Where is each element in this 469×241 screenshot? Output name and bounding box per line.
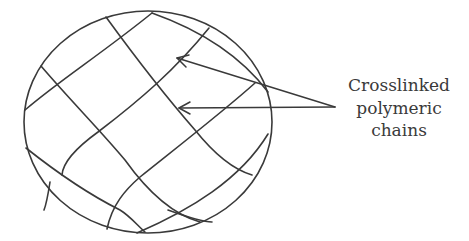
label-line-2: polymeric xyxy=(340,97,458,120)
label-line-3: chains xyxy=(340,119,458,142)
label-line-1: Crosslinked xyxy=(340,74,458,97)
pointer-arrow-upper xyxy=(177,58,335,107)
polymer-chain xyxy=(62,28,209,175)
polymer-chain xyxy=(137,134,268,233)
pointer-arrow-lower xyxy=(179,107,335,108)
polymer-chain xyxy=(107,83,255,229)
sphere-outline xyxy=(24,11,272,233)
polymer-chain xyxy=(106,17,252,175)
crosslinked-chains-label: Crosslinked polymeric chains xyxy=(340,74,458,142)
